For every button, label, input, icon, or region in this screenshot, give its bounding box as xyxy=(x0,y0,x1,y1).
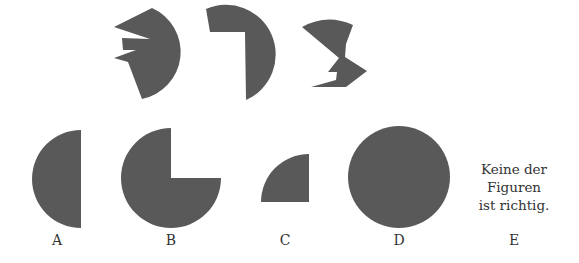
option-e-label[interactable]: E xyxy=(494,232,534,248)
option-e-line-2: Figuren xyxy=(464,178,564,196)
puzzle-canvas xyxy=(0,0,579,263)
option-d-label[interactable]: D xyxy=(379,232,419,248)
puzzle-piece-1 xyxy=(114,8,181,99)
puzzle-piece-3 xyxy=(302,19,367,87)
option-b-three-quarter-circle[interactable] xyxy=(121,128,221,228)
option-c-label[interactable]: C xyxy=(265,232,305,248)
puzzle-piece-2 xyxy=(206,5,276,100)
option-e-line-3: ist richtig. xyxy=(464,196,564,214)
option-a-half-circle[interactable] xyxy=(32,130,81,228)
option-e-line-1: Keine der xyxy=(464,160,564,178)
option-c-quarter-circle[interactable] xyxy=(261,154,309,202)
option-b-label[interactable]: B xyxy=(151,232,191,248)
option-a-label[interactable]: A xyxy=(37,232,77,248)
option-e-text[interactable]: Keine der Figuren ist richtig. xyxy=(464,160,564,214)
option-d-full-circle[interactable] xyxy=(348,126,450,228)
